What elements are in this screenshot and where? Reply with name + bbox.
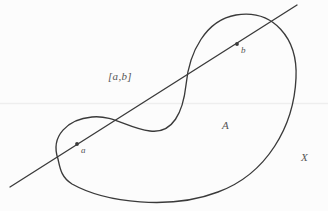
set-a-label: A (222, 120, 229, 131)
point-a-label: a (81, 146, 86, 155)
point-b-marker (235, 42, 239, 46)
space-x-label: X (301, 152, 308, 163)
point-b-label: b (241, 46, 246, 55)
diagram-canvas (0, 0, 328, 211)
point-a-marker (75, 142, 79, 146)
segment-ab-line (10, 5, 297, 187)
convexity-diagram-figure: [a,b] a b A X (0, 0, 328, 211)
interval-label: [a,b] (108, 71, 132, 82)
set-boundary-path (56, 14, 296, 202)
